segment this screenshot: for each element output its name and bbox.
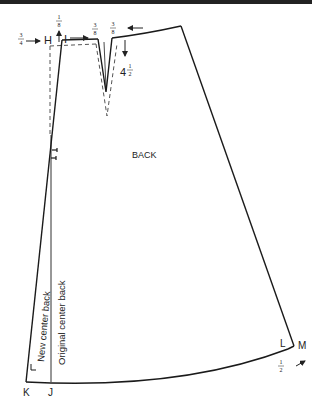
new-waist-left <box>62 39 98 40</box>
svg-text:3: 3 <box>20 32 23 38</box>
point-label-k: K <box>23 387 30 398</box>
new-center-back-label: New center back <box>35 290 52 362</box>
point-label-i: I <box>64 33 67 45</box>
k-corner-mark <box>31 364 36 370</box>
svg-text:1: 1 <box>280 359 283 365</box>
svg-text:1: 1 <box>58 14 61 20</box>
svg-text:8: 8 <box>94 30 97 36</box>
svg-text:4: 4 <box>20 40 23 46</box>
fraction-3-8-right: 3 8 <box>110 21 116 35</box>
notch-marks <box>51 148 57 160</box>
original-center-back-label: Original center back <box>56 280 67 365</box>
top-border-bar <box>0 0 312 4</box>
fraction-1-8: 1 8 <box>56 14 62 28</box>
point-label-h: H <box>44 34 52 46</box>
svg-text:3: 3 <box>112 21 115 27</box>
pattern-title: BACK <box>132 150 157 160</box>
svg-text:2: 2 <box>280 367 283 373</box>
svg-text:3: 3 <box>94 22 97 28</box>
side-seam <box>181 26 294 346</box>
svg-text:2: 2 <box>129 71 132 77</box>
hem-corner-lm <box>288 346 294 349</box>
svg-text:8: 8 <box>58 22 61 28</box>
fraction-1-2: 1 2 <box>278 359 284 373</box>
original-dart-dashed <box>96 44 117 116</box>
arrow-1-2-extend <box>296 361 305 366</box>
new-waist-right <box>112 26 181 38</box>
skirt-back-pattern-diagram: 3 4 1 8 3 8 3 8 4 1 2 1 2 H I J K L M BA… <box>0 0 326 407</box>
svg-text:8: 8 <box>112 29 115 35</box>
fraction-3-4: 3 4 <box>18 32 24 46</box>
svg-text:1: 1 <box>129 63 132 69</box>
svg-text:4: 4 <box>120 66 126 78</box>
fraction-3-8-left: 3 8 <box>92 22 98 36</box>
point-label-m: M <box>298 340 306 351</box>
point-label-j: J <box>48 387 53 398</box>
original-waist-dashed <box>50 44 96 46</box>
fraction-4-1-2: 4 1 2 <box>120 63 133 78</box>
point-label-l: L <box>280 338 286 349</box>
